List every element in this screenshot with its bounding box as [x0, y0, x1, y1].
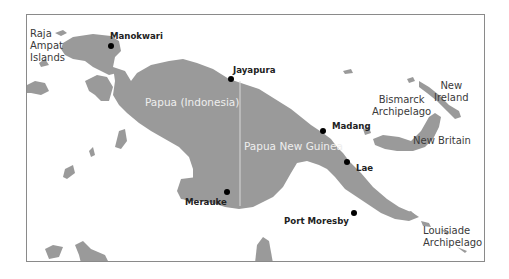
louisiade-line-2: Archipelago	[423, 237, 482, 249]
city-label-port-moresby: Port Moresby	[284, 216, 349, 227]
city-label-manokwari: Manokwari	[110, 31, 163, 42]
raja-ampat-line-3: Islands	[30, 52, 65, 64]
city-dot-jayapura[interactable]	[228, 76, 234, 82]
bismarck-line-2: Archipelago	[372, 106, 431, 118]
louisiade-line-1: Louisiade	[423, 225, 482, 237]
city-dot-port-moresby[interactable]	[351, 210, 357, 216]
city-dot-lae[interactable]	[344, 159, 350, 165]
region-label-papua-new-guinea: Papua New Guinea	[244, 141, 343, 152]
new-ireland-line-2: Ireland	[434, 92, 469, 104]
city-label-merauke: Merauke	[185, 197, 227, 208]
city-dot-merauke[interactable]	[224, 189, 230, 195]
feature-label-raja-ampat: Raja Ampat Islands	[30, 28, 65, 64]
feature-label-new-britain: New Britain	[413, 135, 471, 147]
feature-label-louisiade-archipelago: Louisiade Archipelago	[423, 225, 482, 249]
feature-label-new-ireland: New Ireland	[434, 80, 469, 104]
city-label-lae: Lae	[356, 163, 373, 174]
city-dot-madang[interactable]	[320, 128, 326, 134]
city-label-madang: Madang	[332, 121, 371, 132]
bismarck-line-1: Bismarck	[372, 94, 431, 106]
city-label-jayapura: Jayapura	[233, 65, 275, 76]
new-ireland-line-1: New	[434, 80, 469, 92]
region-label-papua-indonesia: Papua (Indonesia)	[145, 97, 239, 108]
city-dot-manokwari[interactable]	[108, 43, 114, 49]
feature-label-bismarck-archipelago: Bismarck Archipelago	[372, 94, 431, 118]
raja-ampat-line-2: Ampat	[30, 40, 65, 52]
raja-ampat-line-1: Raja	[30, 28, 65, 40]
